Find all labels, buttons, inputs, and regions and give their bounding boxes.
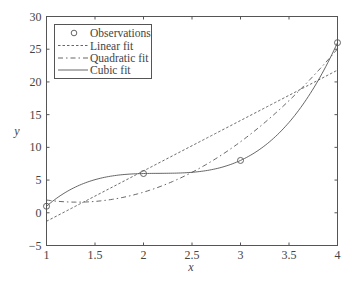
observation-marker-icon [238, 157, 244, 163]
y-tick-label: 10 [30, 140, 42, 154]
x-tick-label: 3.5 [282, 248, 297, 262]
observation-marker-icon [141, 171, 147, 177]
legend: Observations Linear fit Quadratic fit Cu… [55, 25, 152, 79]
x-tick-label: 4 [335, 248, 341, 262]
y-tick-label: 20 [30, 75, 42, 89]
x-tick-label: 3 [238, 248, 244, 262]
observation-marker-icon [44, 203, 50, 209]
observation-marker-icon [335, 40, 341, 46]
legend-label-quadratic: Quadratic fit [90, 52, 149, 64]
linear-fit-line [47, 70, 338, 221]
y-tick-label: 25 [30, 42, 42, 56]
y-tick-label: 0 [36, 206, 42, 220]
x-tick-label: 2 [141, 248, 147, 262]
x-tick-label: 1 [44, 248, 50, 262]
x-tick-label: 1.5 [88, 248, 103, 262]
y-axis-label: y [13, 124, 20, 138]
y-tick-label: 30 [30, 10, 42, 24]
legend-label-linear: Linear fit [90, 40, 134, 52]
chart: 11.522.533.54−5051015202530 x y Observat… [0, 0, 356, 284]
y-tick-label: −5 [29, 239, 42, 253]
y-tick-label: 15 [30, 108, 42, 122]
legend-label-observations: Observations [90, 27, 151, 39]
x-axis-label: x [187, 260, 194, 274]
y-tick-label: 5 [36, 173, 42, 187]
legend-label-cubic: Cubic fit [90, 64, 131, 76]
